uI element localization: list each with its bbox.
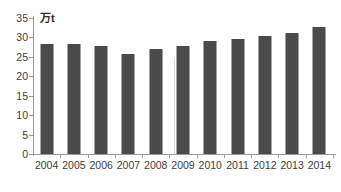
bar-2006 [95,46,108,154]
y-axis-tick [29,76,33,77]
y-axis-tick-label: 25 [16,52,28,63]
x-axis-tick [88,154,89,158]
y-axis-tick [29,57,33,58]
y-axis-tick-label: 10 [16,110,28,121]
bar-2005 [67,44,80,154]
y-axis-tick [29,154,33,155]
x-axis-label-2008: 2008 [144,160,167,171]
x-axis-tick [306,154,307,158]
bar-2010 [204,41,217,154]
x-axis-label-2012: 2012 [253,160,276,171]
x-axis-tick [115,154,116,158]
bar-2007 [122,54,135,154]
x-axis-tick [197,154,198,158]
x-axis-tick [224,154,225,158]
plot-area: 35302520151050 [33,18,333,154]
y-axis-tick [29,18,33,19]
x-axis-label-2013: 2013 [280,160,303,171]
x-axis-tick [333,154,334,158]
x-axis-label-2004: 2004 [35,160,58,171]
bar-2004 [40,44,53,154]
x-axis-label-2009: 2009 [171,160,194,171]
y-axis-tick [29,135,33,136]
x-axis-tick [169,154,170,158]
x-axis-label-2010: 2010 [199,160,222,171]
bar-2014 [313,27,326,154]
bar-2011 [231,39,244,154]
y-axis-tick [29,96,33,97]
y-axis-tick-label: 35 [16,13,28,24]
bar-2009 [177,46,190,154]
x-axis-line [33,154,336,155]
y-axis-tick-label: 30 [16,32,28,43]
y-axis-tick-label: 5 [22,129,28,140]
x-axis-label-2005: 2005 [62,160,85,171]
bar-2013 [286,33,299,154]
y-axis-tick-label: 20 [16,71,28,82]
x-axis-tick [251,154,252,158]
x-axis-tick [60,154,61,158]
x-axis-label-2014: 2014 [308,160,331,171]
bar-2012 [258,36,271,154]
y-axis-tick-label: 0 [22,149,28,160]
x-axis-tick [142,154,143,158]
y-axis-tick [29,37,33,38]
x-axis-label-2007: 2007 [117,160,140,171]
y-axis-tick-label: 15 [16,90,28,101]
x-axis-label-2006: 2006 [89,160,112,171]
x-axis-label-2011: 2011 [226,160,249,171]
bar-2008 [149,49,162,154]
y-axis-tick [29,115,33,116]
chart-screenshot: 万t 35302520151050 2004200520062007200820… [0,0,341,192]
x-axis-tick [278,154,279,158]
